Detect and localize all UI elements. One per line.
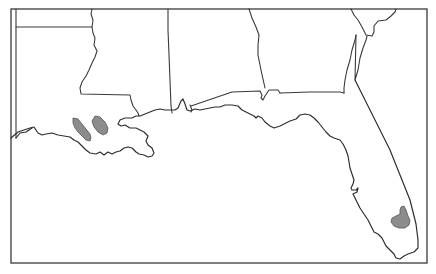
range-area-sw-louisiana-west: [73, 118, 91, 141]
range-area-sw-louisiana-east: [92, 116, 108, 135]
range-map: [0, 0, 436, 274]
map-svg: [0, 0, 436, 274]
range-area-south-florida: [391, 206, 410, 228]
alabama-georgia-border: [249, 9, 265, 88]
mississippi-river-border: [80, 9, 139, 116]
mississippi-alabama-border: [168, 9, 172, 113]
georgia-florida-border: [344, 35, 356, 93]
georgia-sc-lower: [355, 35, 367, 80]
georgia-florida-border-east: [280, 92, 344, 93]
georgia-south-carolina-border: [351, 9, 396, 36]
alabama-florida-border: [191, 90, 280, 106]
map-frame: [11, 9, 427, 263]
gulf-coastline: [11, 80, 418, 259]
